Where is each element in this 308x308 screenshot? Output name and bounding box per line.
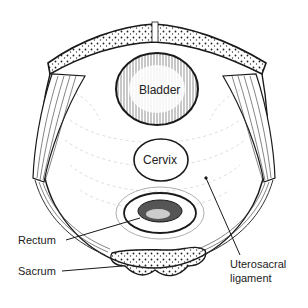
rectum — [116, 187, 204, 239]
cervix-label: Cervix — [143, 154, 177, 167]
sacrum-label: Sacrum — [18, 265, 56, 278]
rectum-label: Rectum — [18, 234, 56, 247]
bladder-label: Bladder — [139, 84, 180, 97]
uterosacral-label-line2: ligament — [230, 272, 272, 285]
uterosacral-label-line1: Uterosacral — [230, 258, 286, 271]
sacrum — [111, 247, 206, 275]
